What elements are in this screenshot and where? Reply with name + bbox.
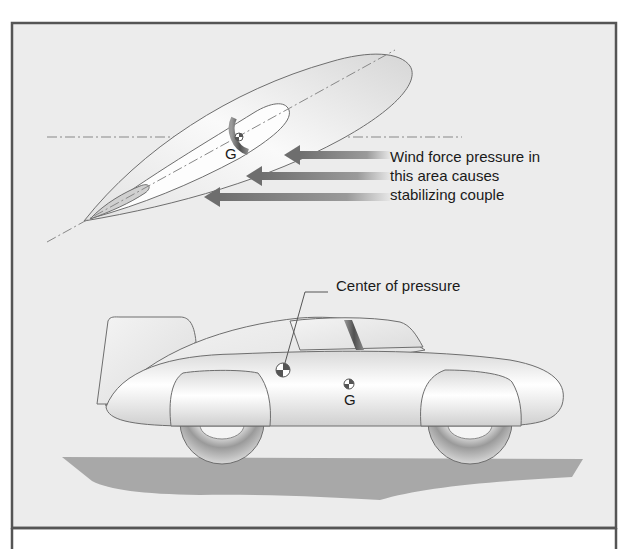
g-label-side: G — [344, 391, 356, 408]
annotation-line: Wind force pressure in — [390, 147, 590, 166]
center-of-gravity-marker-top — [235, 133, 243, 141]
center-of-pressure-marker — [276, 363, 290, 377]
center-of-pressure-label: Center of pressure — [336, 277, 460, 294]
wind-force-annotation: Wind force pressure in this area causes … — [390, 147, 590, 204]
g-label-top: G — [225, 145, 237, 162]
annotation-line: stabilizing couple — [390, 185, 590, 204]
rear-wheel-fairing — [170, 370, 270, 426]
annotation-line: this area causes — [390, 166, 590, 185]
front-wheel-fairing — [421, 370, 522, 426]
diagram-canvas — [0, 0, 630, 549]
center-of-gravity-marker-side — [344, 379, 354, 389]
